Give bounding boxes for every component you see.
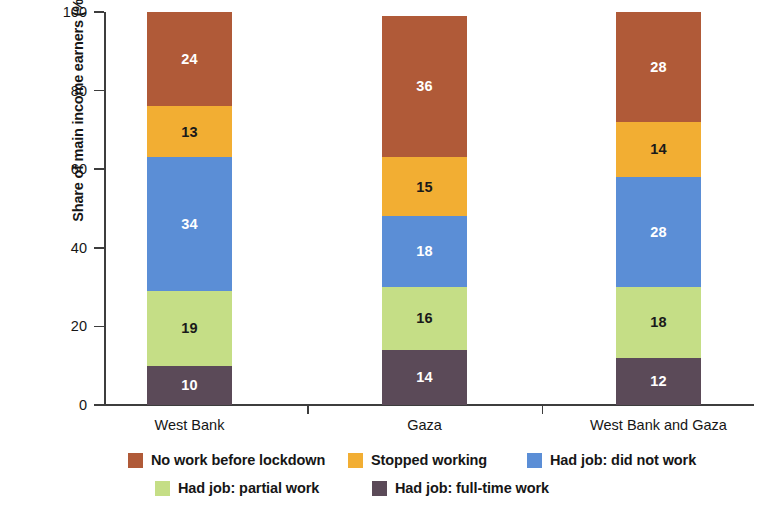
- bar-segment-value: 14: [416, 370, 433, 385]
- x-axis-tick: [542, 405, 544, 414]
- legend-label: Had job: did not work: [550, 453, 696, 468]
- legend-label: Stopped working: [371, 453, 487, 468]
- legend-swatch-icon: [155, 481, 170, 496]
- bar-segment[interactable]: 10: [147, 366, 232, 405]
- chart-legend: No work before lockdownStopped workingHa…: [0, 449, 771, 509]
- bar-segment-value: 18: [416, 244, 433, 259]
- bar-segment[interactable]: 24: [147, 12, 232, 106]
- bar-segment[interactable]: 28: [616, 177, 701, 287]
- y-axis-tick: 100: [94, 11, 104, 13]
- y-axis-tick: 60: [94, 168, 104, 170]
- bar-segment[interactable]: 15: [382, 157, 467, 216]
- bar-segment[interactable]: 16: [382, 287, 467, 350]
- y-axis-tick: 40: [94, 247, 104, 249]
- plot-area: 0204060801002413341910West Bank361518161…: [104, 12, 749, 405]
- bar-segment[interactable]: 18: [382, 216, 467, 287]
- bar-segment[interactable]: 18: [616, 287, 701, 358]
- legend-label: No work before lockdown: [151, 453, 325, 468]
- y-axis-tick: 80: [94, 90, 104, 92]
- stacked-bar-chart: Share of main income earners (%) 0204060…: [0, 0, 771, 509]
- bar-segment-value: 14: [650, 142, 667, 157]
- y-axis-tick-label: 100: [63, 4, 87, 20]
- legend-label: Had job: full-time work: [395, 481, 549, 496]
- bar-segment[interactable]: 28: [616, 12, 701, 122]
- legend-item[interactable]: No work before lockdown: [128, 453, 325, 468]
- legend-swatch-icon: [128, 453, 143, 468]
- bar-segment-value: 34: [181, 217, 198, 232]
- bar-segment[interactable]: 12: [616, 358, 701, 405]
- legend-swatch-icon: [372, 481, 387, 496]
- legend-item[interactable]: Had job: did not work: [527, 453, 696, 468]
- bar-segment-value: 16: [416, 311, 433, 326]
- legend-label: Had job: partial work: [178, 481, 319, 496]
- y-axis-tick-label: 40: [71, 239, 87, 255]
- legend-item[interactable]: Had job: partial work: [155, 481, 319, 496]
- bar-segment[interactable]: 14: [616, 122, 701, 177]
- y-axis-title: Share of main income earners (%): [70, 0, 86, 258]
- bar-segment[interactable]: 36: [382, 16, 467, 157]
- bar-segment[interactable]: 14: [382, 350, 467, 405]
- bar-segment-value: 28: [650, 60, 667, 75]
- y-axis-tick-label: 20: [71, 318, 87, 334]
- legend-swatch-icon: [527, 453, 542, 468]
- x-axis-label-west-bank-and-gaza: West Bank and Gaza: [590, 417, 727, 433]
- bar-segment-value: 19: [181, 321, 198, 336]
- bar-segment-value: 12: [650, 374, 667, 389]
- y-axis-line: [104, 12, 106, 405]
- bar-segment[interactable]: 19: [147, 291, 232, 366]
- bar-segment[interactable]: 13: [147, 106, 232, 157]
- bar-segment-value: 24: [181, 52, 198, 67]
- y-axis-tick: 20: [94, 326, 104, 328]
- bar-gaza[interactable]: 3615181614: [382, 16, 467, 405]
- bar-segment-value: 10: [181, 378, 198, 393]
- legend-item[interactable]: Stopped working: [348, 453, 487, 468]
- bar-segment-value: 36: [416, 79, 433, 94]
- y-axis-tick-label: 80: [71, 82, 87, 98]
- x-axis-tick: [307, 405, 309, 414]
- y-axis-tick-label: 60: [71, 161, 87, 177]
- bar-west-bank[interactable]: 2413341910: [147, 12, 232, 405]
- x-axis-label-gaza: Gaza: [407, 417, 442, 433]
- y-axis-tick: 0: [94, 404, 104, 406]
- y-axis-tick-label: 0: [79, 397, 87, 413]
- x-axis-label-west-bank: West Bank: [155, 417, 225, 433]
- bar-west-bank-and-gaza[interactable]: 2814281812: [616, 12, 701, 405]
- bar-segment-value: 18: [650, 315, 667, 330]
- bar-segment-value: 28: [650, 225, 667, 240]
- legend-swatch-icon: [348, 453, 363, 468]
- legend-item[interactable]: Had job: full-time work: [372, 481, 549, 496]
- bar-segment-value: 15: [416, 180, 433, 195]
- bar-segment-value: 13: [181, 125, 198, 140]
- bar-segment[interactable]: 34: [147, 157, 232, 291]
